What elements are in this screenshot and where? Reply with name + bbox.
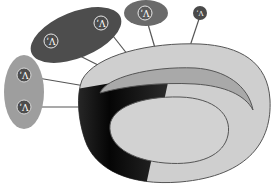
group-ellipse <box>4 55 44 129</box>
group-left-light: ʹΛ ʹΛ <box>4 55 44 129</box>
diagram-canvas: ʹΛ ʹΛ ʹΛ ʹΛ ʹΛ ʹΛ <box>0 0 277 192</box>
group-small-dark: ʹΛ <box>124 0 168 26</box>
group-single: ʹΛ <box>193 6 207 20</box>
marker-label: ʹΛ <box>46 37 56 47</box>
marker-label: ʹΛ <box>19 103 29 113</box>
leader-line <box>190 16 200 46</box>
marker-label: ʹΛ <box>140 9 150 19</box>
marker-label: ʹΛ <box>96 19 106 29</box>
marker-label: ʹΛ <box>19 71 29 81</box>
marker-label: ʹΛ <box>196 10 204 18</box>
main-body <box>60 44 270 190</box>
